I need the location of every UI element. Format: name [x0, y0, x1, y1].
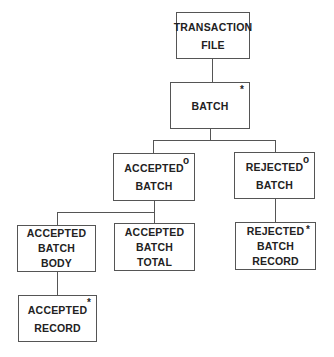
edge-to-accepted-body	[57, 212, 58, 225]
node-accepted-record: * ACCEPTED RECORD	[18, 295, 97, 342]
node-label: ACCEPTED BATCH BODY	[27, 226, 86, 271]
node-label: ACCEPTED BATCH TOTAL	[125, 225, 184, 270]
selection-marker: o	[183, 156, 189, 166]
edge-to-accepted-batch	[153, 140, 154, 153]
node-label: ACCEPTED RECORD	[28, 301, 87, 337]
node-label: REJECTED BATCH RECORD	[247, 224, 305, 269]
iteration-marker: *	[306, 225, 310, 235]
edge-body-to-record	[57, 272, 58, 295]
node-accepted-batch: o ACCEPTED BATCH	[113, 153, 195, 201]
node-label: REJECTED BATCH	[246, 158, 304, 194]
edge-batch-bar	[153, 140, 276, 141]
node-rejected-batch-record: * REJECTED BATCH RECORD	[235, 222, 316, 270]
selection-marker: o	[303, 155, 309, 165]
iteration-marker: *	[87, 298, 91, 308]
node-label: ACCEPTED BATCH	[124, 159, 183, 195]
edge-accepted-bar	[57, 212, 155, 213]
edge-batch-down	[210, 129, 211, 140]
iteration-marker: *	[240, 85, 244, 95]
edge-file-batch	[212, 59, 213, 82]
node-label: BATCH	[192, 97, 229, 115]
node-transaction-file: TRANSACTION FILE	[176, 12, 250, 59]
node-rejected-batch: o REJECTED BATCH	[234, 152, 315, 199]
edge-to-rejected-batch	[275, 140, 276, 152]
node-accepted-batch-body: ACCEPTED BATCH BODY	[17, 225, 96, 272]
node-accepted-batch-total: ACCEPTED BATCH TOTAL	[114, 223, 195, 271]
node-label: TRANSACTION FILE	[174, 18, 253, 54]
node-batch: * BATCH	[170, 82, 250, 129]
edge-rejected-to-record	[275, 199, 276, 222]
